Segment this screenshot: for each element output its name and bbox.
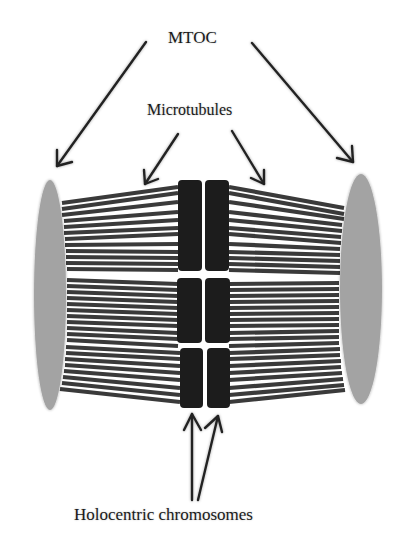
microtubules-left	[60, 187, 180, 402]
spindle-diagram	[0, 0, 399, 548]
holocentric-chromosomes	[177, 180, 230, 408]
arrow-holocentric-left	[184, 414, 201, 500]
mtoc-left	[34, 180, 66, 410]
holocentric-chromosomes-label: Holocentric chromosomes	[74, 505, 253, 525]
arrow-mtoc-right	[252, 43, 353, 162]
chromosome-pair-1-left	[178, 180, 202, 271]
mtoc-label: MTOC	[168, 28, 217, 48]
chromosome-pair-2-right	[205, 278, 230, 343]
chromosome-pair-3-left	[180, 348, 203, 408]
microtubules-right	[229, 187, 345, 402]
chromosome-pair-2-left	[177, 278, 202, 343]
mtoc-right	[340, 174, 382, 404]
chromosome-pair-1-right	[205, 180, 229, 271]
arrow-microtubules-right	[232, 131, 264, 184]
microtubules-label: Microtubules	[147, 101, 232, 119]
arrow-mtoc-left	[57, 42, 146, 166]
arrow-microtubules-left	[144, 134, 178, 184]
chromosome-pair-3-right	[207, 348, 230, 408]
arrow-holocentric-right	[198, 416, 222, 500]
